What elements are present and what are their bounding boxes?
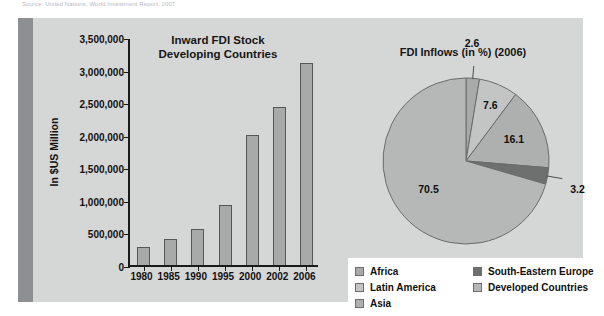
y-tick-mark	[124, 137, 130, 138]
y-tick-mark	[124, 267, 130, 268]
pie-svg	[348, 66, 598, 256]
bar-chart-x-tick-labels: 1980198519901995200020022006	[128, 271, 318, 291]
pie-value-label-latin-america: 7.6	[478, 99, 502, 111]
pie-leader-line	[547, 176, 563, 179]
pie-chart: FDI Inflows (in %) (2006) 2.67.616.13.27…	[348, 46, 598, 256]
legend-label: Latin America	[370, 282, 436, 293]
bar-1995	[219, 205, 232, 265]
pie-value-label-asia: 16.1	[502, 133, 526, 145]
figure-page: Source: United Nations, World Investment…	[0, 0, 604, 316]
pie-chart-canvas: 2.67.616.13.270.5	[348, 66, 598, 256]
y-tick-mark	[124, 234, 130, 235]
x-tick-label: 2006	[287, 271, 321, 282]
legend-item[interactable]: Africa	[355, 264, 467, 279]
y-tick-label: 500,000	[54, 229, 124, 240]
source-note: Source: United Nations, World Investment…	[22, 0, 322, 9]
legend-swatch-icon	[355, 283, 364, 292]
bar-chart-y-tick-labels: 3,500,0003,000,0002,500,0002,000,0001,50…	[54, 39, 124, 267]
pie-value-label-africa: 2.6	[460, 37, 484, 49]
legend-column-1: AfricaLatin AmericaAsia	[355, 264, 467, 312]
pie-value-label-south-eastern-europe: 3.2	[565, 183, 589, 195]
y-tick-label: 1,500,000	[54, 164, 124, 175]
bar-2006	[300, 63, 313, 265]
y-tick-label: 3,000,000	[54, 66, 124, 77]
y-tick-mark	[124, 104, 130, 105]
bar-2002	[273, 107, 286, 265]
y-tick-label: 2,500,000	[54, 99, 124, 110]
bar-2000	[246, 135, 259, 265]
bar-1980	[137, 247, 150, 265]
y-tick-mark	[124, 169, 130, 170]
figure-panel: Inward FDI Stock Developing Countries In…	[18, 18, 583, 302]
legend-item[interactable]: Asia	[355, 296, 467, 311]
legend-label: Africa	[370, 266, 398, 277]
pie-value-label-developed-countries: 70.5	[417, 183, 441, 195]
legend-swatch-icon	[355, 299, 364, 308]
legend-label: South-Eastern Europe	[488, 266, 594, 277]
y-tick-label: 0	[54, 262, 124, 273]
y-tick-mark	[124, 202, 130, 203]
legend-item[interactable]: Developed Countries	[473, 280, 591, 295]
y-tick-label: 3,500,000	[54, 34, 124, 45]
bar-chart: Inward FDI Stock Developing Countries In…	[40, 28, 325, 300]
y-tick-mark	[124, 72, 130, 73]
bar-1985	[164, 239, 177, 265]
legend-item[interactable]: Latin America	[355, 280, 467, 295]
pie-leader-line	[473, 66, 475, 79]
bar-chart-plot-area	[128, 39, 318, 267]
legend-swatch-icon	[473, 267, 482, 276]
legend-column-2: South-Eastern EuropeDeveloped Countries	[473, 264, 591, 296]
y-tick-label: 2,000,000	[54, 131, 124, 142]
legend-swatch-icon	[355, 267, 364, 276]
legend-label: Developed Countries	[488, 282, 588, 293]
legend-label: Asia	[370, 298, 391, 309]
y-tick-label: 1,000,000	[54, 196, 124, 207]
left-accent-bar	[18, 18, 33, 302]
y-tick-mark	[124, 39, 130, 40]
legend-item[interactable]: South-Eastern Europe	[473, 264, 591, 279]
bar-1990	[191, 229, 204, 265]
legend-swatch-icon	[473, 283, 482, 292]
chart-legend: AfricaLatin AmericaAsia South-Eastern Eu…	[348, 258, 593, 313]
